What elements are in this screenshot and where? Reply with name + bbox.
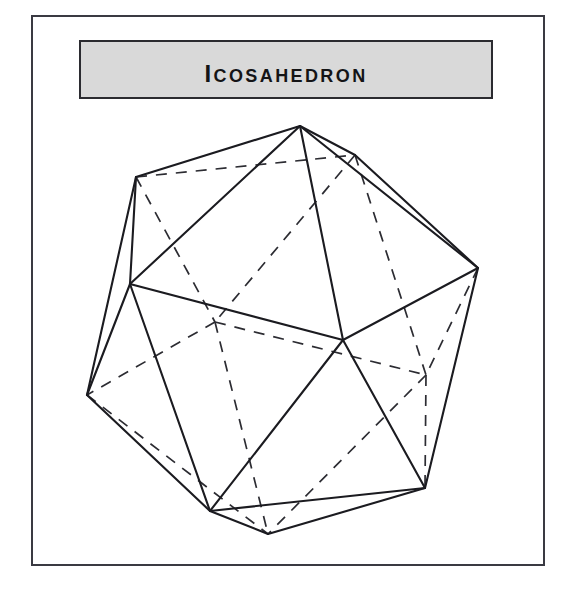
edge-mid_left-center [130,284,343,340]
edge-lower_left-bottom_left [87,395,210,511]
edge-apex-right [300,126,478,268]
edge-bottom_left-bottom [210,511,268,534]
icosahedron-diagram [33,17,543,564]
hidden-edge-upper_left-hidden_left [136,177,215,322]
hidden-edge-hidden_left-bottom [215,322,268,534]
edge-center-lower_right [343,340,425,488]
page-root: Icosahedron [0,0,572,593]
solid-edge-group [87,126,478,534]
hidden-edge-hidden_left-lower_left [87,322,215,395]
hidden-edge-hidden_right-lower_right [425,375,426,488]
edge-apex-upper_right [300,126,355,155]
edge-mid_left-bottom_left [130,284,210,511]
edge-right-lower_right [425,268,478,488]
edge-apex-mid_left [130,126,300,284]
edge-center-bottom_left [210,340,343,511]
hidden-edge-right-hidden_right [426,268,478,375]
figure-area [33,17,543,564]
edge-bottom_left-lower_right [210,488,425,511]
edge-upper_right-right [355,155,478,268]
edge-bottom-lower_right [268,488,425,534]
hidden-edge-hidden_left-hidden_right [215,322,426,375]
